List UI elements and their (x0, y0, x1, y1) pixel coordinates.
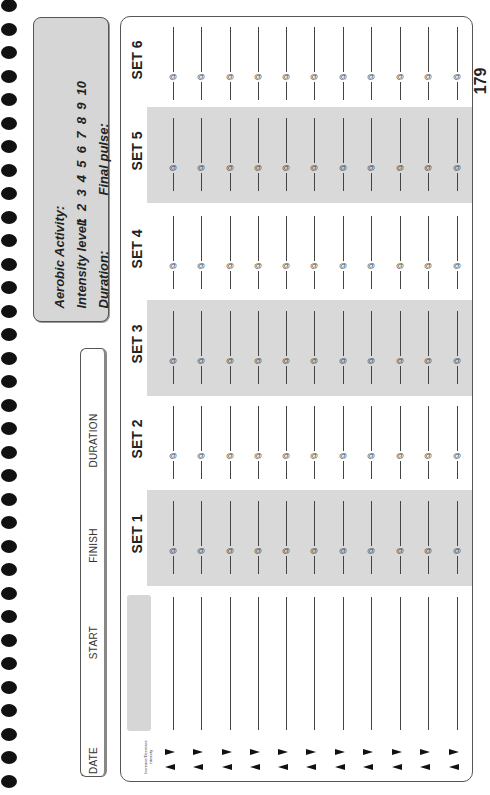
reps-entry-line[interactable] (173, 173, 174, 191)
weight-entry-line[interactable] (258, 118, 259, 163)
reps-entry-line[interactable] (400, 173, 401, 191)
reps-entry-line[interactable] (428, 366, 429, 384)
weight-entry-line[interactable] (286, 118, 287, 163)
reps-entry-line[interactable] (343, 556, 344, 574)
reps-entry-line[interactable] (314, 556, 315, 574)
decrease-arrow-icon[interactable] (392, 764, 402, 770)
increase-arrow-icon[interactable] (420, 749, 430, 755)
weight-entry-line[interactable] (314, 311, 315, 356)
reps-entry-line[interactable] (457, 82, 458, 100)
weight-entry-line[interactable] (400, 118, 401, 163)
reps-entry-line[interactable] (314, 173, 315, 191)
decrease-arrow-icon[interactable] (335, 764, 345, 770)
weight-entry-line[interactable] (400, 311, 401, 356)
notes-line[interactable] (371, 597, 372, 730)
decrease-arrow-icon[interactable] (250, 764, 260, 770)
decrease-arrow-icon[interactable] (449, 764, 459, 770)
increase-arrow-icon[interactable] (250, 749, 260, 755)
reps-entry-line[interactable] (343, 461, 344, 479)
reps-entry-line[interactable] (230, 173, 231, 191)
reps-entry-line[interactable] (230, 366, 231, 384)
notes-line[interactable] (286, 597, 287, 730)
weight-entry-line[interactable] (457, 27, 458, 72)
reps-entry-line[interactable] (400, 366, 401, 384)
weight-entry-line[interactable] (230, 406, 231, 451)
weight-entry-line[interactable] (286, 311, 287, 356)
reps-entry-line[interactable] (371, 173, 372, 191)
reps-entry-line[interactable] (314, 461, 315, 479)
reps-entry-line[interactable] (201, 461, 202, 479)
weight-entry-line[interactable] (230, 501, 231, 546)
reps-entry-line[interactable] (400, 461, 401, 479)
notes-line[interactable] (457, 597, 458, 730)
reps-entry-line[interactable] (428, 556, 429, 574)
reps-entry-line[interactable] (457, 461, 458, 479)
weight-entry-line[interactable] (201, 118, 202, 163)
reps-entry-line[interactable] (286, 173, 287, 191)
reps-entry-line[interactable] (201, 173, 202, 191)
weight-entry-line[interactable] (201, 311, 202, 356)
intensity-level-scale[interactable]: 1 2 3 4 5 6 7 8 9 10 (74, 0, 89, 226)
reps-entry-line[interactable] (428, 173, 429, 191)
weight-entry-line[interactable] (457, 216, 458, 261)
reps-entry-line[interactable] (201, 82, 202, 100)
weight-entry-line[interactable] (343, 27, 344, 72)
decrease-arrow-icon[interactable] (193, 764, 203, 770)
weight-entry-line[interactable] (314, 216, 315, 261)
reps-entry-line[interactable] (314, 82, 315, 100)
reps-entry-line[interactable] (201, 366, 202, 384)
reps-entry-line[interactable] (286, 271, 287, 289)
weight-entry-line[interactable] (400, 406, 401, 451)
notes-line[interactable] (400, 597, 401, 730)
weight-entry-line[interactable] (314, 406, 315, 451)
weight-entry-line[interactable] (457, 406, 458, 451)
weight-entry-line[interactable] (400, 27, 401, 72)
reps-entry-line[interactable] (173, 82, 174, 100)
reps-entry-line[interactable] (314, 366, 315, 384)
weight-entry-line[interactable] (286, 216, 287, 261)
reps-entry-line[interactable] (371, 271, 372, 289)
weight-entry-line[interactable] (343, 406, 344, 451)
reps-entry-line[interactable] (173, 556, 174, 574)
decrease-arrow-icon[interactable] (306, 764, 316, 770)
reps-entry-line[interactable] (201, 271, 202, 289)
decrease-arrow-icon[interactable] (222, 764, 232, 770)
weight-entry-line[interactable] (230, 216, 231, 261)
weight-entry-line[interactable] (428, 501, 429, 546)
weight-entry-line[interactable] (371, 501, 372, 546)
reps-entry-line[interactable] (258, 556, 259, 574)
weight-entry-line[interactable] (258, 501, 259, 546)
increase-arrow-icon[interactable] (363, 749, 373, 755)
increase-arrow-icon[interactable] (193, 749, 203, 755)
reps-entry-line[interactable] (230, 82, 231, 100)
weight-entry-line[interactable] (428, 311, 429, 356)
reps-entry-line[interactable] (457, 366, 458, 384)
reps-entry-line[interactable] (173, 271, 174, 289)
reps-entry-line[interactable] (173, 366, 174, 384)
notes-line[interactable] (230, 597, 231, 730)
weight-entry-line[interactable] (258, 27, 259, 72)
reps-entry-line[interactable] (457, 271, 458, 289)
decrease-arrow-icon[interactable] (165, 764, 175, 770)
weight-entry-line[interactable] (400, 216, 401, 261)
weight-entry-line[interactable] (230, 27, 231, 72)
weight-entry-line[interactable] (343, 311, 344, 356)
weight-entry-line[interactable] (173, 118, 174, 163)
weight-entry-line[interactable] (428, 27, 429, 72)
reps-entry-line[interactable] (400, 82, 401, 100)
increase-arrow-icon[interactable] (165, 749, 175, 755)
weight-entry-line[interactable] (428, 216, 429, 261)
decrease-arrow-icon[interactable] (363, 764, 373, 770)
weight-entry-line[interactable] (428, 118, 429, 163)
weight-entry-line[interactable] (201, 406, 202, 451)
weight-entry-line[interactable] (371, 406, 372, 451)
weight-entry-line[interactable] (173, 406, 174, 451)
notes-line[interactable] (258, 597, 259, 730)
decrease-arrow-icon[interactable] (278, 764, 288, 770)
reps-entry-line[interactable] (428, 271, 429, 289)
weight-entry-line[interactable] (286, 406, 287, 451)
reps-entry-line[interactable] (201, 556, 202, 574)
weight-entry-line[interactable] (457, 118, 458, 163)
weight-entry-line[interactable] (400, 501, 401, 546)
weight-entry-line[interactable] (314, 27, 315, 72)
